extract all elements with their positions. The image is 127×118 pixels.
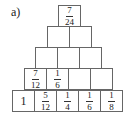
denominator: 4 — [65, 102, 70, 112]
fraction: 512 — [41, 91, 50, 112]
numerator: 1 — [108, 91, 115, 102]
denominator: 12 — [41, 102, 50, 112]
denominator: 8 — [109, 102, 114, 112]
problem-label: a) — [11, 5, 20, 20]
pyramid-cell — [35, 47, 58, 69]
pyramid-cell: 14 — [56, 90, 79, 112]
pyramid-cell — [68, 68, 91, 90]
numerator: 5 — [42, 91, 49, 102]
pyramid-cell: 512 — [34, 90, 57, 112]
pyramid-cell — [69, 26, 92, 48]
fraction: 16 — [54, 69, 61, 90]
cell-value: 1 — [21, 94, 27, 109]
pyramid-cell — [47, 26, 70, 48]
pyramid-cell: 16 — [46, 68, 69, 90]
denominator: 6 — [55, 80, 60, 90]
fraction: 724 — [65, 6, 74, 27]
numerator: 7 — [66, 6, 73, 17]
fraction: 14 — [64, 91, 71, 112]
pyramid-cell: 18 — [100, 90, 123, 112]
numerator: 1 — [86, 91, 93, 102]
numerator: 1 — [54, 69, 61, 80]
pyramid-cell: 1 — [12, 90, 35, 112]
fraction: 18 — [108, 91, 115, 112]
denominator: 12 — [31, 80, 40, 90]
numerator: 1 — [64, 91, 71, 102]
pyramid-cell: 724 — [58, 5, 81, 27]
pyramid-cell — [79, 47, 102, 69]
pyramid-cell — [57, 47, 80, 69]
fraction: 712 — [31, 69, 40, 90]
denominator: 24 — [65, 17, 74, 27]
pyramid-cell: 16 — [78, 90, 101, 112]
numerator: 7 — [32, 69, 39, 80]
pyramid-cell: 712 — [24, 68, 47, 90]
pyramid-cell — [90, 68, 113, 90]
denominator: 6 — [87, 102, 92, 112]
fraction: 16 — [86, 91, 93, 112]
